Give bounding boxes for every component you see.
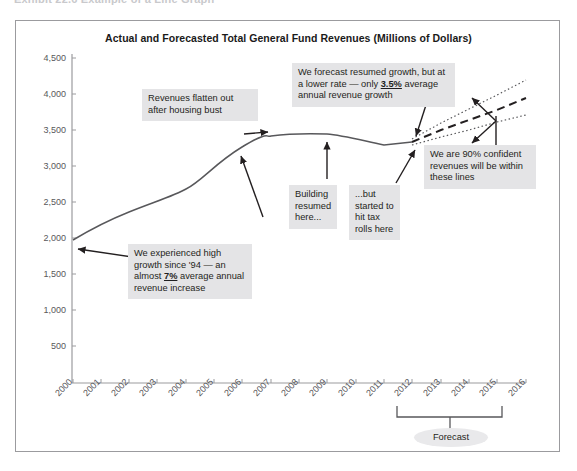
callout-text: Building resumed here... [295, 189, 331, 222]
ytick-label: 1,500 [22, 269, 66, 279]
ytick-label: 4,000 [22, 89, 66, 99]
arrow-to-forecast-growth [416, 105, 426, 136]
forecast-label-pill: Forecast [414, 428, 488, 447]
forecast-bracket [397, 406, 502, 429]
callout-confidence: We are 90% confident revenues will be wi… [424, 145, 536, 189]
callout-high-growth: We experienced high growth since '94 — a… [128, 244, 252, 299]
ytick-label: 4,500 [22, 53, 66, 63]
arrow-to-tax-rolls [396, 150, 415, 183]
arrow-to-flatten [244, 132, 268, 134]
ytick-label: 500 [22, 341, 66, 351]
exhibit-caption-clipped: Exhibit 22.6 Example of a Line Graph [0, 0, 577, 13]
callout-forecast-growth: We forecast resumed growth, but at a low… [292, 63, 455, 107]
arrow-to-high-growth [241, 156, 263, 217]
ytick-label: 1,000 [22, 305, 66, 315]
callout-building-resumed: Building resumed here... [289, 185, 337, 229]
ytick-label: 2,500 [22, 197, 66, 207]
ytick-label: 3,500 [22, 125, 66, 135]
ytick-label: 3,000 [22, 161, 66, 171]
callout-revenues-flatten: Revenues flatten out after housing bust [142, 89, 258, 121]
forecast-label-text: Forecast [414, 428, 488, 447]
ytick-label: 2,000 [22, 233, 66, 243]
plot-area: 4,500 4,000 3,500 3,000 2,500 2,000 1,50… [16, 21, 561, 453]
callout-tax-rolls: ...but started to hit tax rolls here [349, 185, 400, 240]
callout-text: We are 90% confident revenues will be wi… [430, 149, 523, 182]
callout-text: ...but started to hit tax rolls here [355, 189, 394, 234]
exhibit-caption-text: Exhibit 22.6 Example of a Line Graph [14, 0, 214, 5]
callout-rate-7: 7% [164, 271, 177, 281]
callout-text: Revenues flatten out after housing bust [148, 93, 233, 115]
series-confidence-lower [412, 115, 526, 145]
callout-rate-3-5: 3.5% [381, 79, 402, 89]
chart-frame: Actual and Forecasted Total General Fund… [15, 20, 560, 452]
